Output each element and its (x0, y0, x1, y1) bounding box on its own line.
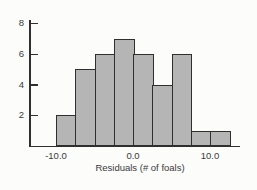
histogram-bar (56, 115, 77, 146)
y-tick-label: 8 (2, 17, 24, 29)
histogram-bar (114, 39, 135, 146)
x-tick-label: 10.0 (193, 150, 227, 162)
y-tick-mark (29, 84, 38, 86)
histogram-bar (133, 54, 154, 146)
y-tick-mark (29, 23, 38, 25)
histogram-bar (95, 54, 116, 146)
y-tick-label: 6 (2, 48, 24, 60)
y-tick-mark (29, 115, 38, 117)
histogram-bar (210, 131, 231, 146)
histogram-bar (172, 54, 193, 146)
y-tick-label: 2 (2, 109, 24, 121)
histogram-figure: 2468 -10.00.010.0 Residuals (# of foals) (0, 0, 257, 190)
x-tick-label: 0.0 (116, 150, 150, 162)
histogram-bar (75, 69, 96, 146)
x-axis-title: Residuals (# of foals) (55, 162, 225, 173)
y-tick-label: 4 (2, 79, 24, 91)
plot-area: 2468 -10.00.010.0 Residuals (# of foals) (0, 0, 257, 190)
y-tick-mark (29, 54, 38, 56)
x-tick-label: -10.0 (39, 150, 73, 162)
histogram-bar (152, 85, 173, 146)
histogram-bar (191, 131, 212, 146)
